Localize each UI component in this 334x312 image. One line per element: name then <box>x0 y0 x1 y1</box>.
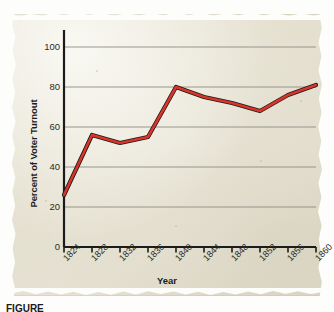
chart-y-tick-label: 100 <box>34 41 60 52</box>
figure-caption: FIGURE <box>6 303 328 312</box>
chart-x-axis-title: Year <box>0 275 334 286</box>
chart-y-axis-title: Percent of Voter Turnout <box>28 74 39 234</box>
figure-root: 020406080100 Percent of Voter Turnout 18… <box>0 0 334 312</box>
chart-y-tick-label: 0 <box>34 241 60 252</box>
